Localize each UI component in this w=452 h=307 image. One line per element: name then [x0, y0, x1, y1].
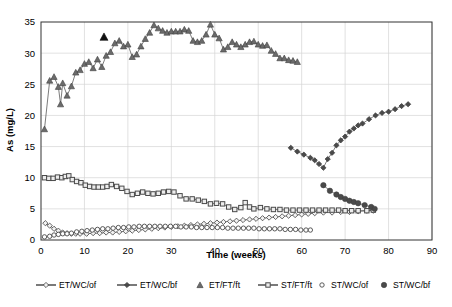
- data-point-open-square: [55, 175, 59, 179]
- data-point-open-circle: [42, 235, 46, 239]
- data-point-open-circle: [65, 232, 69, 236]
- data-point-open-circle: [52, 233, 56, 237]
- data-point-open-circle: [308, 228, 312, 232]
- legend-label: ST/FT/ft: [281, 280, 313, 290]
- data-point-open-square: [365, 209, 369, 213]
- data-point-open-square: [125, 189, 129, 193]
- x-tick-label: 90: [427, 245, 438, 256]
- data-point-filled-circle: [372, 206, 377, 211]
- data-point-open-circle: [299, 228, 303, 232]
- data-point-open-circle: [246, 226, 250, 230]
- data-point-open-circle: [80, 229, 84, 233]
- data-point-open-square: [130, 192, 134, 196]
- y-tick-label: 5: [30, 203, 35, 214]
- data-point-open-circle: [61, 232, 65, 236]
- data-point-open-circle: [226, 226, 230, 230]
- x-tick-label: 10: [79, 245, 90, 256]
- data-point-open-square: [140, 190, 144, 194]
- data-point-open-circle: [116, 225, 120, 229]
- legend-label: ST/WC/of: [331, 280, 369, 290]
- x-tick-label: 30: [166, 245, 177, 256]
- data-point-open-circle: [304, 228, 308, 232]
- y-tick-label: 35: [24, 16, 35, 27]
- data-point-open-square: [252, 207, 256, 211]
- chart-canvas: 0102030405060708090 05101520253035 Time …: [0, 0, 452, 307]
- data-point-open-square: [265, 207, 269, 211]
- data-point-open-circle: [288, 227, 292, 231]
- data-point-open-square: [190, 197, 194, 201]
- x-tick-label: 0: [38, 245, 43, 256]
- data-point-open-square: [184, 197, 188, 201]
- data-point-open-circle: [142, 224, 146, 228]
- y-tick-label: 20: [24, 110, 35, 121]
- data-point-open-square: [214, 201, 218, 205]
- data-point-open-square: [226, 205, 230, 209]
- data-point-open-square: [87, 184, 91, 188]
- y-tick-label: 15: [24, 141, 35, 152]
- data-point-open-square: [120, 186, 124, 190]
- data-point-open-circle: [267, 227, 271, 231]
- data-point-open-circle: [132, 225, 136, 229]
- data-point-open-circle: [47, 234, 51, 238]
- legend-marker-open-square: [266, 283, 270, 287]
- data-point-open-circle: [236, 226, 240, 230]
- data-point-open-square: [202, 199, 206, 203]
- data-point-open-square: [297, 208, 301, 212]
- data-point-open-square: [96, 185, 100, 189]
- data-point-open-square: [243, 200, 247, 204]
- data-point-open-circle: [220, 225, 224, 229]
- data-point-open-circle: [241, 226, 245, 230]
- legend-label: ET/WC/of: [59, 280, 97, 290]
- data-point-open-circle: [189, 225, 193, 229]
- data-point-open-square: [356, 209, 360, 213]
- data-point-open-circle: [147, 224, 151, 228]
- legend-label: ST/WC/bf: [393, 280, 431, 290]
- data-point-open-square: [146, 191, 150, 195]
- data-point-open-square: [83, 183, 87, 187]
- data-point-filled-circle: [327, 188, 332, 193]
- data-point-open-circle: [210, 225, 214, 229]
- data-point-open-circle: [121, 225, 125, 229]
- data-point-open-square: [114, 184, 118, 188]
- data-point-open-square: [233, 207, 237, 211]
- data-point-open-circle: [168, 224, 172, 228]
- data-point-open-circle: [252, 226, 256, 230]
- data-point-open-square: [109, 182, 113, 186]
- data-point-open-square: [247, 205, 251, 209]
- y-tick-label: 0: [30, 234, 35, 245]
- y-tick-label: 10: [24, 172, 35, 183]
- legend-label: ET/FT/ft: [209, 280, 241, 290]
- data-point-open-circle: [184, 225, 188, 229]
- data-point-open-circle: [283, 227, 287, 231]
- data-point-open-circle: [231, 226, 235, 230]
- data-point-open-circle: [106, 227, 110, 231]
- data-point-open-circle: [158, 224, 162, 228]
- data-point-open-square: [278, 207, 282, 211]
- data-point-open-square: [135, 191, 139, 195]
- data-point-open-circle: [293, 227, 297, 231]
- data-point-open-square: [70, 177, 74, 181]
- data-point-open-square: [161, 190, 165, 194]
- data-point-open-square: [79, 180, 83, 184]
- data-point-open-square: [74, 179, 78, 183]
- data-point-open-square: [156, 191, 160, 195]
- legend-label: ET/WC/bf: [140, 280, 178, 290]
- data-point-open-circle: [90, 228, 94, 232]
- data-point-open-square: [196, 198, 200, 202]
- legend-marker-open-circle: [320, 283, 324, 287]
- data-point-open-square: [92, 185, 96, 189]
- data-point-open-square: [167, 189, 171, 193]
- data-point-open-square: [47, 176, 51, 180]
- data-point-open-circle: [179, 225, 183, 229]
- data-point-open-circle: [111, 226, 115, 230]
- data-point-open-square: [323, 208, 327, 212]
- data-point-open-circle: [273, 227, 277, 231]
- x-tick-label: 60: [296, 245, 307, 256]
- data-point-filled-circle: [362, 202, 367, 207]
- data-point-open-square: [330, 208, 334, 212]
- data-point-open-circle: [194, 225, 198, 229]
- data-point-open-circle: [137, 224, 141, 228]
- data-point-open-square: [51, 176, 55, 180]
- data-point-open-circle: [74, 230, 78, 234]
- data-point-open-circle: [215, 225, 219, 229]
